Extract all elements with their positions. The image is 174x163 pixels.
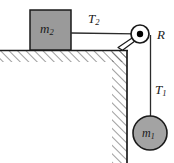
label-m2-base: m: [40, 21, 49, 36]
label-block-m2: m2: [40, 22, 54, 35]
label-tension-t1: T1: [155, 83, 167, 96]
label-m1-base: m: [142, 126, 151, 140]
pulley-axle-icon: [137, 31, 143, 37]
table-hatching: [0, 50, 127, 62]
label-r-base: R: [157, 27, 165, 42]
rope-horizontal: [71, 33, 136, 34]
label-m2-sub: 2: [49, 27, 53, 37]
label-t1-sub: 1: [162, 88, 166, 98]
label-tension-t2: T2: [88, 12, 100, 25]
label-hanging-mass-m1: m1: [142, 127, 155, 139]
physics-diagram: m2 m1 T2 T1 R: [0, 0, 174, 163]
wall-hatching: [112, 50, 127, 163]
label-pulley-radius: R: [157, 28, 165, 41]
label-m1-sub: 1: [151, 132, 155, 141]
label-t2-sub: 2: [95, 17, 99, 27]
